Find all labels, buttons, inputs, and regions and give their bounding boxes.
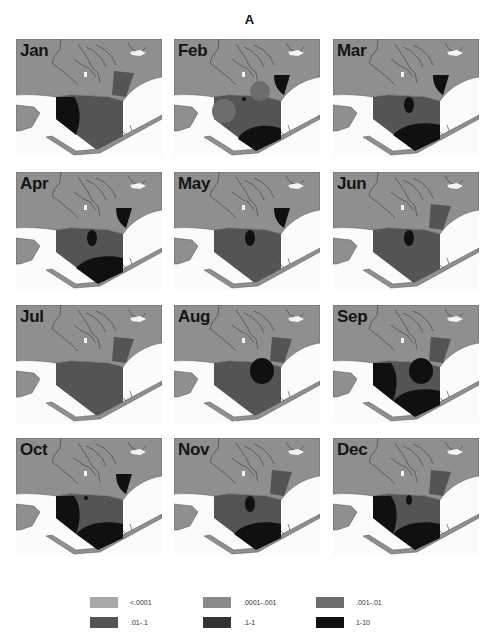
- map-panel-dec: Dec: [333, 438, 479, 556]
- month-label: Oct: [20, 440, 47, 460]
- map-panel-may: May: [174, 172, 320, 290]
- legend-label: .001-.01: [356, 597, 382, 608]
- legend-swatch: [203, 597, 231, 608]
- legend-swatch: [90, 597, 118, 608]
- legend-label: .1-1: [243, 617, 255, 628]
- map-panel-jul: Jul: [16, 305, 162, 423]
- month-label: Apr: [20, 174, 48, 194]
- month-label: Feb: [178, 41, 207, 61]
- legend-swatch: [316, 597, 344, 608]
- month-label: Nov: [178, 440, 209, 460]
- month-label: Jun: [337, 174, 366, 194]
- month-label: Sep: [337, 307, 367, 327]
- map-panel-nov: Nov: [174, 438, 320, 556]
- map-panel-jun: Jun: [333, 172, 479, 290]
- legend-swatch: [316, 617, 344, 628]
- map-panel-sep: Sep: [333, 305, 479, 423]
- legend-label: <.0001: [130, 597, 152, 608]
- legend-swatch: [203, 617, 231, 628]
- month-label: Jan: [20, 41, 48, 61]
- map-panel-feb: Feb: [174, 39, 320, 157]
- month-label: Mar: [337, 41, 366, 61]
- legend-label: 1-10: [356, 617, 370, 628]
- month-label: Jul: [20, 307, 44, 327]
- map-panel-apr: Apr: [16, 172, 162, 290]
- month-label: Dec: [337, 440, 367, 460]
- legend-label: .0001-.001: [243, 597, 276, 608]
- legend-swatch: [90, 617, 118, 628]
- figure-title: A: [0, 12, 499, 27]
- legend-label: .01-.1: [130, 617, 148, 628]
- map-panel-mar: Mar: [333, 39, 479, 157]
- month-label: Aug: [178, 307, 210, 327]
- month-label: May: [178, 174, 210, 194]
- map-panel-aug: Aug: [174, 305, 320, 423]
- map-panel-jan: Jan: [16, 39, 162, 157]
- map-panel-oct: Oct: [16, 438, 162, 556]
